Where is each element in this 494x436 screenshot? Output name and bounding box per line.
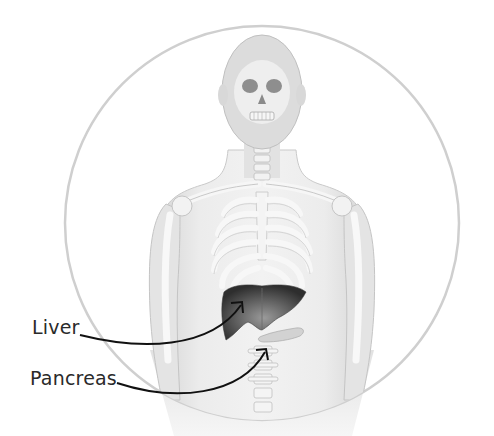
anatomy-diagram: Liver Pancreas — [0, 0, 494, 436]
liver-label: Liver — [32, 316, 80, 338]
body-figure — [149, 35, 374, 436]
pancreas-label: Pancreas — [30, 367, 117, 389]
